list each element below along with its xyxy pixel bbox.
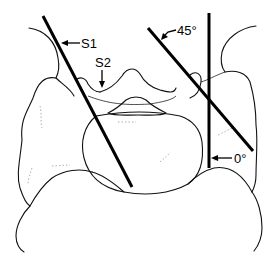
lower-left-outline [16,206,30,252]
s2-label: S2 [95,55,111,70]
s1-label: S1 [81,36,97,51]
stipple-body-2 [160,152,170,162]
body-base-curve [92,172,124,192]
45-degree-annotation: 45° [161,23,197,40]
s2-arrowhead-icon [99,81,105,88]
stipple-right-1 [218,128,232,135]
lower-right-outline [252,192,262,251]
right-lateral-mass-inner [201,72,225,82]
45-degree-guide-line [148,28,253,151]
0-degree-label: 0° [234,151,246,166]
s1-annotation: S1 [61,36,97,51]
stipple-left-3 [52,165,70,166]
right-base-curve [188,168,252,192]
right-occipital-outline [221,26,256,72]
right-lateral-mass [225,71,257,192]
left-lateral-mass [18,78,92,206]
45-degree-arrowhead-icon [161,33,168,40]
anatomy-diagram: S1 S2 45° 0° [0,0,275,259]
0-degree-annotation: 0° [211,151,246,166]
stipple-left-2 [28,168,32,184]
s2-annotation: S2 [95,55,111,88]
dens-upper-ridge [100,69,176,92]
s1-arrowhead-icon [61,40,68,46]
stipple-left-1 [40,106,42,128]
left-lateral-mass-inner [56,78,74,96]
45-degree-label: 45° [177,23,197,38]
